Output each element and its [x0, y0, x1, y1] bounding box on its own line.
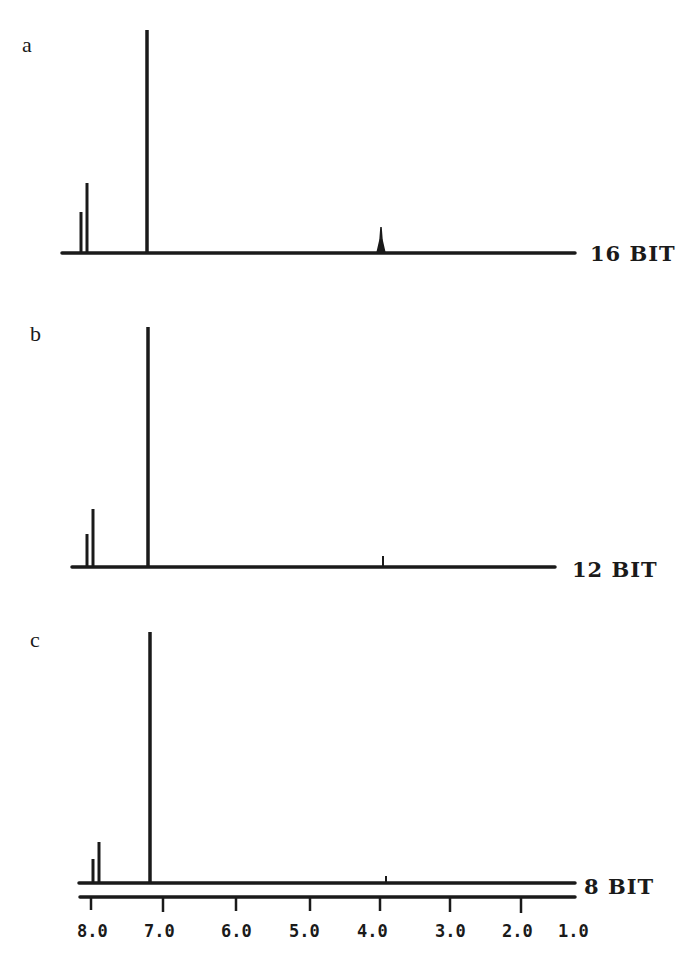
tick-label-7: 7.0 [144, 921, 175, 941]
panel-letter-a: a [22, 32, 32, 57]
tick-label-4: 4.0 [357, 921, 388, 941]
bit-label-a: 16 BIT [590, 241, 676, 266]
panel-c: c 8 BIT [30, 627, 654, 899]
bit-label-b: 12 BIT [572, 557, 658, 582]
tick-label-5: 5.0 [289, 921, 320, 941]
nmr-spectra-figure: a 16 BIT b 12 BIT c 8 BIT 8.0 [0, 0, 695, 960]
panel-letter-c: c [30, 627, 40, 652]
panel-letter-b: b [30, 321, 41, 346]
panel-b: b 12 BIT [30, 321, 658, 582]
ppm-axis: 8.0 7.0 6.0 5.0 4.0 3.0 2.0 1.0 [77, 897, 589, 941]
tick-label-6: 6.0 [221, 921, 252, 941]
peak-a-4 [377, 227, 385, 253]
bit-label-c: 8 BIT [584, 874, 654, 899]
tick-label-8: 8.0 [77, 921, 108, 941]
panel-a: a 16 BIT [22, 30, 676, 266]
tick-label-2: 2.0 [502, 921, 533, 941]
tick-label-3: 3.0 [435, 921, 466, 941]
tick-label-1: 1.0 [558, 921, 589, 941]
